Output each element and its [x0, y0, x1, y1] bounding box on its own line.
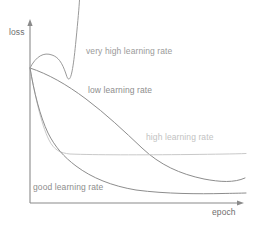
curve-very-high-learning-rate [30, 0, 80, 79]
curve-annotation-good-learning-rate: good learning rate [33, 182, 103, 192]
x-axis-label: epoch [212, 207, 236, 217]
y-axis-label: loss [9, 27, 25, 37]
loss-vs-epoch-plot [0, 0, 258, 232]
y-axis-arrow-icon [27, 19, 32, 26]
curve-annotation-very-high-learning-rate: very high learning rate [86, 46, 172, 56]
x-axis-arrow-icon [237, 200, 244, 205]
learning-rate-loss-figure: loss epoch very high learning rate low l… [0, 0, 258, 232]
curve-annotation-high-learning-rate: high learning rate [146, 132, 213, 142]
curve-high-learning-rate [30, 68, 246, 155]
curve-annotation-low-learning-rate: low learning rate [88, 85, 152, 95]
